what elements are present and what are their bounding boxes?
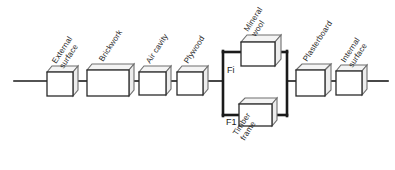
thermal-resistance-diagram: External surface Brickwork Air cavity Pl… bbox=[0, 0, 395, 170]
air-cavity-label-line1: Air cavity bbox=[144, 32, 170, 65]
label-plasterboard: Plasterboard bbox=[301, 19, 334, 63]
plasterboard-side-face bbox=[325, 64, 331, 96]
mineral-wool-top-face bbox=[241, 35, 281, 42]
brickwork-top-face bbox=[87, 64, 134, 70]
mineral-wool-front-face bbox=[241, 42, 275, 66]
label-mineral-wool: Mineral wool bbox=[242, 5, 272, 38]
internal-surface-front-face bbox=[336, 71, 362, 95]
timber-frame-top-face bbox=[239, 98, 277, 104]
resistor-plasterboard[interactable] bbox=[296, 64, 331, 96]
internal-surface-side-face bbox=[362, 65, 367, 95]
resistor-plywood[interactable] bbox=[177, 66, 208, 95]
resistor-brickwork[interactable] bbox=[87, 64, 134, 96]
resistor-external-surface[interactable] bbox=[47, 66, 78, 96]
plywood-side-face bbox=[203, 66, 208, 95]
plasterboard-label-line1: Plasterboard bbox=[301, 19, 334, 63]
network-canvas: External surface Brickwork Air cavity Pl… bbox=[0, 0, 395, 170]
external-surface-side-face bbox=[73, 66, 78, 96]
brickwork-side-face bbox=[129, 64, 134, 96]
label-air-cavity: Air cavity bbox=[144, 32, 170, 65]
resistor-internal-surface[interactable] bbox=[336, 65, 367, 95]
brickwork-front-face bbox=[87, 70, 129, 96]
fraction-label-lower: F1 bbox=[226, 117, 237, 127]
resistor-air-cavity[interactable] bbox=[139, 66, 171, 95]
plasterboard-front-face bbox=[296, 70, 325, 96]
plywood-front-face bbox=[177, 72, 203, 95]
brickwork-label-line1: Brickwork bbox=[97, 28, 124, 63]
air-cavity-side-face bbox=[166, 66, 171, 95]
label-plywood: Plywood bbox=[182, 34, 206, 65]
resistor-mineral-wool[interactable] bbox=[241, 35, 281, 66]
plywood-label-line1: Plywood bbox=[182, 34, 206, 65]
fraction-label-upper: Fi bbox=[227, 65, 235, 75]
external-surface-front-face bbox=[47, 72, 73, 96]
label-internal-surface: Internal surface bbox=[339, 36, 369, 69]
label-brickwork: Brickwork bbox=[97, 28, 124, 63]
label-external-surface: External surface bbox=[50, 35, 82, 70]
air-cavity-front-face bbox=[139, 72, 166, 95]
